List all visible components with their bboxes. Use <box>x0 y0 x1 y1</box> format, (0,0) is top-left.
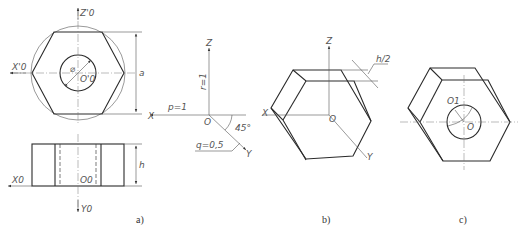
label-x0: X0 <box>11 175 24 185</box>
axes-label-r: r=1 <box>198 73 208 90</box>
label-z0prime: Z'0 <box>79 8 95 18</box>
label-x0prime: X'0 <box>11 62 27 72</box>
label-h: h <box>139 160 145 170</box>
figure-a-front-view: X0 O0 Y0 h a) <box>8 134 145 226</box>
axes-label-origin: O <box>204 117 211 127</box>
figure-b-label-y: Y <box>367 152 374 162</box>
figure-b: Z X Y O h/2 b) <box>261 36 391 226</box>
label-y0: Y0 <box>81 204 92 214</box>
figure-a-top-view: Z'0 X'0 O'0 ⌀ a <box>10 8 145 124</box>
label-diameter: ⌀ <box>70 64 76 74</box>
axes-diagram: Z X Y O 45° p=1 q=0,5 r=1 <box>147 38 253 159</box>
figure-b-label-origin: O <box>329 114 336 124</box>
axes-label-q: q=0,5 <box>196 140 224 150</box>
caption-c: c) <box>459 214 467 226</box>
figure-c-label-o1: O1 <box>447 96 460 106</box>
figure-b-label-z: Z <box>325 36 333 46</box>
axes-label-x: X <box>147 111 155 121</box>
figure-c: O1 O c) <box>400 68 518 226</box>
axes-label-p: p=1 <box>167 102 187 112</box>
axes-label-y: Y <box>246 149 253 159</box>
axes-label-angle: 45° <box>235 123 251 133</box>
figure-b-label-x: X <box>261 108 269 118</box>
technical-drawing: Z'0 X'0 O'0 ⌀ a X0 O0 Y0 h a) Z X Y O 4 <box>0 0 520 234</box>
figure-b-label-h2: h/2 <box>376 54 391 64</box>
label-o0prime: O'0 <box>80 74 96 84</box>
figure-c-label-origin: O <box>467 122 474 132</box>
caption-a: a) <box>136 214 144 226</box>
caption-b: b) <box>322 214 330 226</box>
axes-label-z: Z <box>205 38 213 48</box>
drawing-canvas: Z'0 X'0 O'0 ⌀ a X0 O0 Y0 h a) Z X Y O 4 <box>0 0 520 234</box>
label-o0: O0 <box>80 175 93 185</box>
label-a: a <box>139 68 145 78</box>
